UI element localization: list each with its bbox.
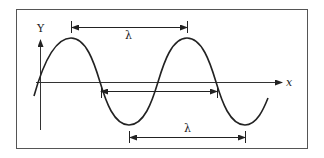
x-axis: x	[36, 76, 293, 89]
diagram-frame	[17, 10, 308, 149]
y-axis-label: Y	[36, 22, 45, 35]
wavelength-marker-middle	[101, 86, 218, 98]
wave-diagram: Y x λ λ	[0, 0, 324, 158]
x-axis-label: x	[286, 76, 293, 89]
wavelength-marker-bottom: λ	[130, 122, 246, 143]
sine-wave	[34, 38, 268, 125]
wavelength-marker-top: λ	[72, 21, 188, 42]
wavelength-label-top: λ	[125, 29, 132, 42]
wavelength-label-bottom: λ	[184, 122, 191, 135]
